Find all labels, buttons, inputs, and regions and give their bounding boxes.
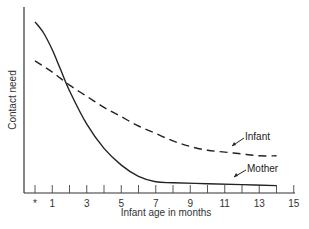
x-axis-ticks [35, 185, 294, 193]
infant-series-label: Infant [245, 131, 270, 142]
x-tick-label: 13 [254, 198, 266, 209]
mother-curve [35, 22, 277, 186]
x-tick-label: * [33, 198, 37, 209]
y-axis-title: Contact need [7, 70, 18, 130]
x-axis-title: Infant age in months [121, 207, 212, 218]
infant-curve [35, 61, 277, 156]
x-tick-label: 11 [220, 198, 231, 209]
mother-series-label: Mother [247, 163, 279, 174]
contact-need-chart: *13579111315 Contact need Infant age in … [0, 0, 309, 229]
x-tick-label: 1 [49, 198, 55, 209]
x-tick-label: 3 [84, 198, 90, 209]
x-tick-label: 15 [288, 198, 300, 209]
